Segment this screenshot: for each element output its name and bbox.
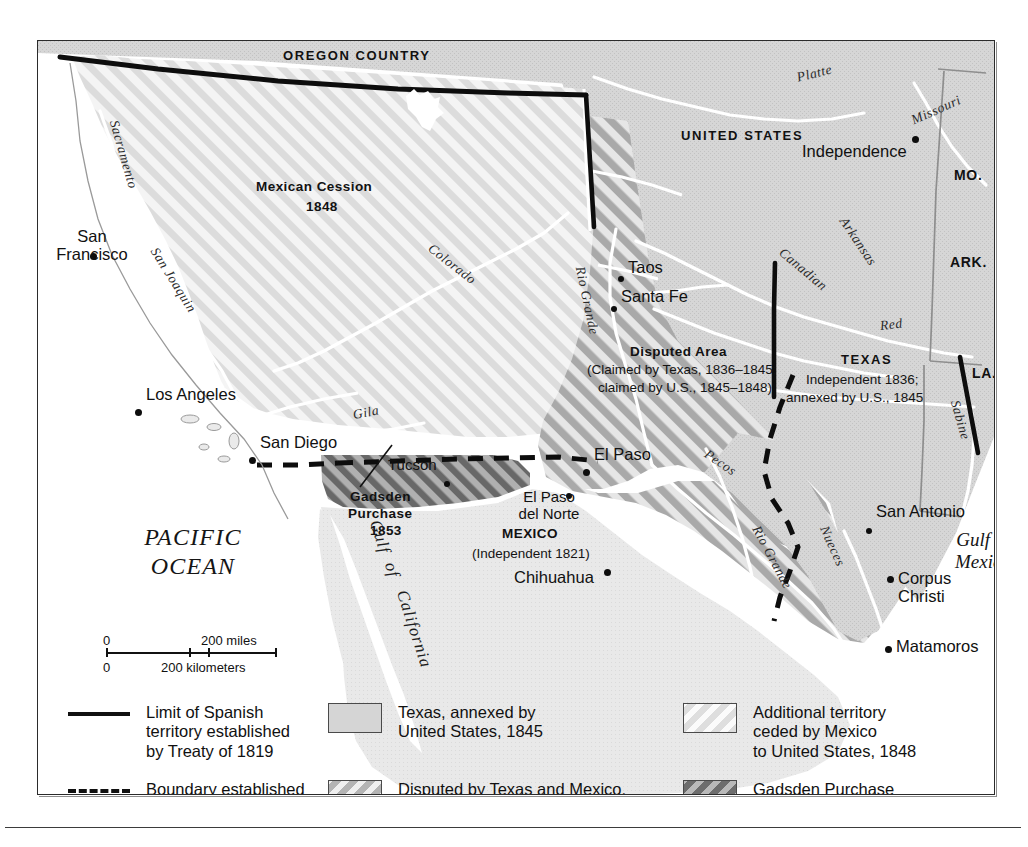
disputed-swatch [328, 780, 382, 794]
legend-item-additional-territory: Additional territory ceded by Mexico to … [683, 703, 993, 767]
disputed-swatch-fill [328, 780, 382, 794]
map-frame: OREGON COUNTRY UNITED STATES Mexican Ces… [37, 40, 995, 795]
legend-label-texas-annexed: Texas, annexed by United States, 1845 [398, 703, 658, 742]
scale-top-row: 0 200 miles [103, 633, 278, 648]
page-rule [5, 827, 1021, 828]
legend-label-spanish-limit: Limit of Spanish territory established b… [146, 703, 348, 761]
scale-ruler [103, 648, 278, 657]
legend-item-disputed: Disputed by Texas and Mexico, later by U… [328, 780, 658, 794]
legend-label-disputed: Disputed by Texas and Mexico, later by U… [398, 780, 658, 794]
city-dot-san-antonio [866, 528, 872, 534]
city-dot-corpus-christi [887, 576, 894, 583]
city-dot-san-diego [249, 457, 256, 464]
city-dot-chihuahua [604, 569, 611, 576]
city-dot-taos [618, 276, 624, 282]
scale-miles-zero: 0 [103, 633, 110, 648]
scale-km-zero: 0 [103, 660, 110, 675]
solid-line-symbol [68, 712, 130, 716]
map-canvas: OREGON COUNTRY UNITED STATES Mexican Ces… [38, 41, 994, 794]
gadsden-swatch [683, 780, 737, 794]
legend-column-3: Additional territory ceded by Mexico to … [683, 703, 993, 794]
texas-swatch [328, 703, 382, 733]
map-legend: Limit of Spanish territory established b… [38, 691, 994, 794]
ceded-swatch [683, 703, 737, 733]
legend-label-additional-territory: Additional territory ceded by Mexico to … [753, 703, 993, 761]
gadsden-swatch-fill [683, 780, 737, 794]
city-dot-santa-fe [611, 306, 617, 312]
city-dot-tucson [444, 481, 450, 487]
city-dot-independence [912, 136, 919, 143]
legend-item-texas-annexed: Texas, annexed by United States, 1845 [328, 703, 658, 767]
legend-label-guadalupe-boundary: Boundary established by Treaty of Guadal… [146, 780, 348, 794]
city-dot-el-paso [583, 469, 590, 476]
ceded-swatch-fill [683, 703, 737, 733]
city-dot-matamoros [885, 646, 892, 653]
scale-km-value: 200 kilometers [161, 660, 246, 675]
legend-item-guadalupe-boundary: Boundary established by Treaty of Guadal… [68, 780, 348, 794]
city-dot-san-francisco [90, 253, 97, 260]
map-vector-layer [38, 41, 994, 794]
legend-column-2: Texas, annexed by United States, 1845 Di… [328, 703, 658, 794]
city-dot-el-paso-del-norte [566, 493, 572, 499]
map-figure: OREGON COUNTRY UNITED STATES Mexican Ces… [0, 0, 1028, 847]
legend-label-gadsden-purchase: Gadsden Purchase by United States from M… [753, 780, 993, 794]
city-dot-los-angeles [135, 409, 142, 416]
texas-swatch-fill [328, 703, 382, 733]
scale-bottom-row: 0 200 kilometers [103, 660, 278, 675]
dashed-line-symbol [68, 789, 130, 793]
scale-bar: 0 200 miles 0 200 kilometers [103, 633, 278, 675]
gadsden-leader-line [354, 443, 414, 493]
legend-column-1: Limit of Spanish territory established b… [68, 703, 348, 794]
legend-item-gadsden-purchase: Gadsden Purchase by United States from M… [683, 780, 993, 794]
legend-item-spanish-limit: Limit of Spanish territory established b… [68, 703, 348, 767]
scale-miles-value: 200 miles [201, 633, 257, 648]
